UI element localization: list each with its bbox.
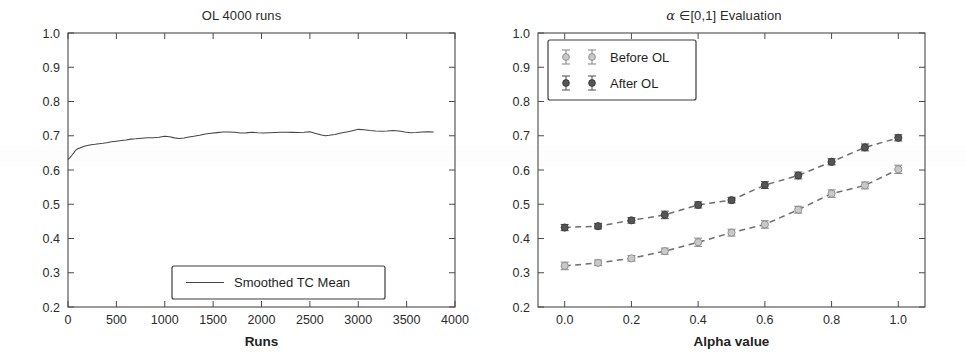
x-tick-label: 0 <box>65 313 72 327</box>
data-point-marker <box>661 211 668 218</box>
x-tick-label: 0.4 <box>689 313 706 327</box>
data-point-marker <box>661 248 668 255</box>
x-tick-label: 2000 <box>248 313 276 327</box>
chart-panel-left: OL 4000 runs 0.20.30.40.50.60.70.80.91.0… <box>0 0 483 354</box>
scan-band <box>483 145 965 167</box>
x-tick-label: 3000 <box>344 313 372 327</box>
data-point-marker <box>895 166 902 173</box>
y-tick-label: 0.9 <box>513 61 530 75</box>
data-point-marker <box>628 217 635 224</box>
y-tick-label: 0.2 <box>43 301 60 315</box>
left-axes-group: 0.20.30.40.50.60.70.80.91.00500100015002… <box>0 27 483 350</box>
data-point-marker <box>828 190 835 197</box>
data-point-marker <box>761 181 768 188</box>
left-x-axis-label: Runs <box>245 334 279 349</box>
data-point-marker <box>861 144 868 151</box>
y-tick-label: 0.6 <box>43 164 60 178</box>
x-tick-label: 0.2 <box>623 313 640 327</box>
right-x-axis-label: Alpha value <box>694 334 770 349</box>
y-tick-label: 0.4 <box>513 232 530 246</box>
y-tick-label: 0.8 <box>513 95 530 109</box>
data-point-marker <box>795 172 802 179</box>
legend-marker <box>589 54 596 61</box>
x-tick-label: 1000 <box>151 313 179 327</box>
x-tick-label: 3500 <box>393 313 421 327</box>
data-point-marker <box>861 182 868 189</box>
x-tick-label: 1.0 <box>890 313 907 327</box>
connector-line <box>565 169 899 266</box>
legend-marker <box>563 54 570 61</box>
data-point-marker <box>728 197 735 204</box>
data-point-marker <box>628 255 635 262</box>
chart-panel-right: α ∈[0,1] Evaluation 0.20.30.40.50.60.70.… <box>483 0 965 354</box>
right-plot-area: 0.20.30.40.50.60.70.80.91.00.00.20.40.60… <box>483 0 965 354</box>
x-tick-label: 4000 <box>441 313 469 327</box>
legend-marker <box>563 80 570 87</box>
data-point-marker <box>594 223 601 230</box>
x-tick-label: 2500 <box>296 313 324 327</box>
y-tick-label: 0.3 <box>43 266 60 280</box>
data-point-marker <box>895 134 902 141</box>
figure-container: OL 4000 runs 0.20.30.40.50.60.70.80.91.0… <box>0 0 965 354</box>
x-tick-label: 1500 <box>199 313 227 327</box>
y-tick-label: 1.0 <box>513 27 530 41</box>
legend-marker <box>589 80 596 87</box>
left-plot-area: 0.20.30.40.50.60.70.80.91.00500100015002… <box>0 0 483 354</box>
data-point-marker <box>695 201 702 208</box>
y-tick-label: 0.5 <box>43 198 60 212</box>
y-tick-label: 0.9 <box>43 61 60 75</box>
left-legend[interactable]: Smoothed TC Mean <box>172 266 385 299</box>
legend-label-after-ol: After OL <box>610 76 658 91</box>
right-legend[interactable]: Before OLAfter OL <box>548 40 696 100</box>
data-point-marker <box>795 206 802 213</box>
series-before-ol <box>561 165 903 269</box>
y-tick-label: 0.4 <box>43 232 60 246</box>
y-tick-label: 0.3 <box>513 266 530 280</box>
data-point-marker <box>594 259 601 266</box>
y-tick-label: 0.2 <box>513 301 530 315</box>
y-tick-label: 0.6 <box>513 164 530 178</box>
y-tick-label: 0.5 <box>513 198 530 212</box>
data-point-marker <box>761 221 768 228</box>
data-point-marker <box>695 239 702 246</box>
data-point-marker <box>728 229 735 236</box>
legend-frame <box>548 40 696 100</box>
scan-band <box>0 145 483 167</box>
y-tick-label: 1.0 <box>43 27 60 41</box>
y-tick-label: 0.7 <box>513 129 530 143</box>
x-tick-label: 0.0 <box>556 313 573 327</box>
data-point-marker <box>561 262 568 269</box>
x-tick-label: 0.8 <box>823 313 840 327</box>
data-point-marker <box>828 158 835 165</box>
data-point-marker <box>561 224 568 231</box>
legend-label-before-ol: Before OL <box>610 50 669 65</box>
y-tick-label: 0.7 <box>43 129 60 143</box>
x-tick-label: 0.6 <box>756 313 773 327</box>
legend-label-smoothed-tc-mean: Smoothed TC Mean <box>234 275 350 290</box>
y-tick-label: 0.8 <box>43 95 60 109</box>
x-tick-label: 500 <box>106 313 127 327</box>
